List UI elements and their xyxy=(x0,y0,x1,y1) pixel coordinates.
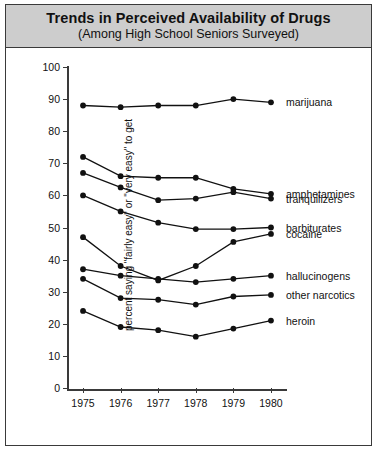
series-heroin xyxy=(80,308,274,339)
data-point xyxy=(193,263,199,269)
data-point xyxy=(193,226,199,232)
series-layer xyxy=(68,67,286,388)
x-tick-label: 1980 xyxy=(259,397,282,409)
data-point xyxy=(230,239,236,245)
series-line xyxy=(83,311,271,337)
data-point xyxy=(268,231,274,237)
y-tick-label: 0 xyxy=(54,382,60,394)
data-point xyxy=(230,326,236,332)
data-point xyxy=(230,189,236,195)
series-label-heroin: heroin xyxy=(286,315,315,327)
y-tick-label: 100 xyxy=(42,61,60,73)
x-tick xyxy=(158,388,159,393)
series-label-other-narcotics: other narcotics xyxy=(286,289,355,301)
data-point xyxy=(80,193,86,199)
data-point xyxy=(268,273,274,279)
title-band: Trends in Perceived Availability of Drug… xyxy=(6,5,371,48)
data-point xyxy=(193,279,199,285)
data-point xyxy=(155,175,161,181)
x-tick xyxy=(196,388,197,393)
series-label-cocaine: cocaine xyxy=(286,228,322,240)
y-tick-label: 50 xyxy=(48,222,60,234)
data-point xyxy=(80,103,86,109)
series-marijuana xyxy=(80,96,274,110)
series-line xyxy=(83,157,271,194)
data-point xyxy=(155,297,161,303)
data-point xyxy=(268,292,274,298)
series-line xyxy=(83,173,271,200)
x-tick-label: 1975 xyxy=(71,397,94,409)
series-barbiturates xyxy=(80,193,274,233)
data-point xyxy=(118,324,124,330)
y-tick-label: 90 xyxy=(48,93,60,105)
data-point xyxy=(268,196,274,202)
data-point xyxy=(155,197,161,203)
x-tick xyxy=(121,388,122,393)
y-tick-label: 10 xyxy=(48,350,60,362)
data-point xyxy=(230,294,236,300)
data-point xyxy=(268,318,274,324)
data-point xyxy=(230,276,236,282)
data-point xyxy=(268,225,274,231)
page-subtitle: (Among High School Seniors Surveyed) xyxy=(78,27,299,42)
page-title: Trends in Perceived Availability of Drug… xyxy=(46,10,330,27)
data-point xyxy=(118,273,124,279)
y-tick-label: 40 xyxy=(48,254,60,266)
data-point xyxy=(80,266,86,272)
series-cocaine xyxy=(80,231,274,283)
data-point xyxy=(80,170,86,176)
data-point xyxy=(193,103,199,109)
x-tick-label: 1979 xyxy=(222,397,245,409)
data-point xyxy=(193,175,199,181)
data-point xyxy=(193,302,199,308)
data-point xyxy=(268,99,274,105)
data-point xyxy=(193,196,199,202)
y-tick-label: 30 xyxy=(48,286,60,298)
series-line xyxy=(83,195,271,229)
series-amphetamines xyxy=(80,154,274,197)
x-tick xyxy=(233,388,234,393)
y-tick-label: 70 xyxy=(48,157,60,169)
figure: Trends in Perceived Availability of Drug… xyxy=(0,0,377,450)
data-point xyxy=(118,104,124,110)
data-point xyxy=(80,154,86,160)
series-tranquilizers xyxy=(80,170,274,203)
x-tick xyxy=(83,388,84,393)
y-tick-label: 80 xyxy=(48,125,60,137)
data-point xyxy=(80,308,86,314)
data-point xyxy=(80,234,86,240)
data-point xyxy=(193,334,199,340)
series-line xyxy=(83,279,271,305)
series-hallucinogens xyxy=(80,266,274,285)
series-label-hallucinogens: hallucinogens xyxy=(286,270,350,282)
plot-area: 0102030405060708090100 19751976197719781… xyxy=(68,67,286,388)
series-label-tranquilizers: tranquilizers xyxy=(286,193,343,205)
x-tick-label: 1976 xyxy=(109,397,132,409)
data-point xyxy=(230,226,236,232)
data-point xyxy=(155,103,161,109)
x-tick xyxy=(271,388,272,393)
data-point xyxy=(155,327,161,333)
y-tick-label: 20 xyxy=(48,318,60,330)
series-line xyxy=(83,269,271,282)
x-tick-label: 1977 xyxy=(147,397,170,409)
x-axis-line xyxy=(67,389,287,391)
x-tick-label: 1978 xyxy=(184,397,207,409)
series-label-marijuana: marijuana xyxy=(286,96,332,108)
y-tick xyxy=(63,388,68,389)
data-point xyxy=(118,184,124,190)
data-point xyxy=(155,276,161,282)
data-point xyxy=(230,96,236,102)
data-point xyxy=(118,263,124,269)
data-point xyxy=(80,276,86,282)
data-point xyxy=(118,209,124,215)
data-point xyxy=(118,173,124,179)
data-point xyxy=(155,220,161,226)
series-line xyxy=(83,99,271,107)
y-tick-label: 60 xyxy=(48,189,60,201)
data-point xyxy=(118,295,124,301)
